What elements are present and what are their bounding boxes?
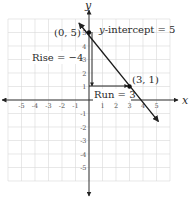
y-tick-label: 1 — [82, 83, 86, 91]
y-axis-label: y — [84, 0, 92, 12]
run-annotation: Run = 3 — [94, 89, 136, 100]
y-tick-label: -4 — [80, 151, 86, 159]
y-intercept-annotation: y-intercept = 5 — [98, 24, 175, 35]
x-tick-label: 1 — [100, 102, 104, 110]
point-label-0-5: (0, 5) — [54, 27, 81, 38]
point-label-3-1: (3, 1) — [132, 74, 159, 85]
graphed-line — [79, 23, 159, 122]
coordinate-plane: -5-4-3-2-11234554321-1-2-3-4-5 y x (0, 5… — [0, 0, 192, 205]
y-tick-label: 4 — [82, 43, 86, 51]
y-tick-label: -3 — [80, 137, 86, 145]
y-tick-label: -2 — [80, 124, 86, 132]
rise-annotation: Rise = −4 — [32, 52, 83, 63]
x-tick-label: -4 — [32, 102, 38, 110]
y-tick-label: 2 — [82, 70, 86, 78]
x-tick-label: 2 — [114, 102, 118, 110]
x-tick-label: -5 — [18, 102, 24, 110]
x-tick-label: 3 — [127, 102, 131, 110]
axes — [2, 10, 178, 196]
y-tick-label: -1 — [80, 110, 86, 118]
y-tick-label: -5 — [80, 164, 86, 172]
x-tick-label: -1 — [72, 102, 78, 110]
x-tick-label: -2 — [59, 102, 65, 110]
x-tick-label: 5 — [154, 102, 158, 110]
x-tick-label: -3 — [45, 102, 51, 110]
point-y-intercept — [87, 30, 91, 34]
x-axis-label: x — [182, 94, 189, 107]
